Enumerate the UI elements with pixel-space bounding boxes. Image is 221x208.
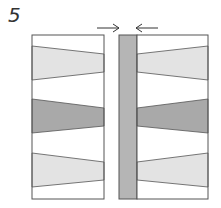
right-fabric-panel: [137, 35, 208, 199]
center-strip: [119, 35, 137, 199]
arrow-pointing-left-icon: [136, 24, 158, 32]
quilt-strip-diagram: [0, 0, 221, 208]
join-arrows: [97, 24, 158, 32]
strip-rect: [119, 35, 137, 199]
arrow-pointing-right-icon: [97, 24, 119, 32]
left-fabric-panel: [32, 35, 104, 199]
